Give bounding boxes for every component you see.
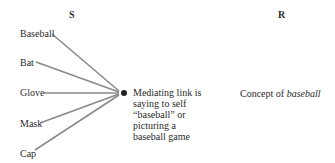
mediating-line-4: picturing a: [133, 120, 223, 131]
line-baseball: [52, 34, 119, 91]
stimulus-cap: Cap: [20, 148, 36, 159]
line-cap: [35, 95, 119, 150]
stimulus-glove: Glove: [20, 87, 44, 98]
mediating-node-dot: [121, 90, 127, 96]
mediating-line-1: Mediating link is: [133, 87, 223, 98]
response-concept: Concept of baseball: [240, 88, 321, 99]
mediating-line-2: saying to self: [133, 98, 223, 109]
line-mask: [40, 94, 119, 123]
stimulus-baseball: Baseball: [20, 28, 54, 39]
concept-emphasis: baseball: [287, 88, 321, 99]
concept-prefix: Concept of: [240, 88, 287, 99]
mediating-line-3: “baseball” or: [133, 109, 223, 120]
mediating-line-5: baseball game: [133, 131, 223, 142]
mediating-link-text: Mediating link is saying to self “baseba…: [133, 87, 223, 142]
stimulus-bat: Bat: [20, 57, 34, 68]
line-bat: [36, 62, 119, 92]
stimulus-mask: Mask: [20, 118, 42, 129]
